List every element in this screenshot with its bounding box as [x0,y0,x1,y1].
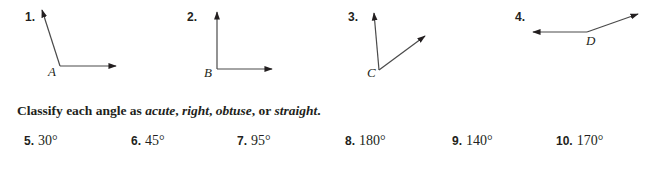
figure-number-1: 1. [25,11,35,23]
exercise-number: 10. [556,134,573,148]
term-obtuse: obtuse [216,103,252,118]
ray-c-1 [374,13,379,70]
figure-number-2: 2. [187,11,197,23]
term-straight: straight [274,103,317,118]
angle-figures: 1. A 2. B 3. C 4. D [0,0,653,90]
exercise-number: 5. [24,134,34,148]
vertex-label-d: D [586,34,595,47]
exercise-row: 5.30° 6.45° 7.95° 8.180° 9.140° 10.170° [0,131,653,151]
exercise-8: 8.180° [345,131,386,149]
exercise-6: 6.45° [131,131,165,149]
exercise-number: 6. [131,134,141,148]
vertex-label-b: B [204,66,212,79]
angle-c-figure [374,13,425,70]
exercise-9: 9.140° [452,131,493,149]
ray-c-2 [379,36,425,70]
figure-number-3: 3. [348,11,358,23]
exercise-7: 7.95° [237,131,271,149]
exercise-5: 5.30° [24,131,58,149]
instruction-text: Classify each angle as acute, right, obt… [17,103,321,119]
figure-number-4: 4. [515,11,525,23]
ray-d-2 [587,14,638,32]
vertex-label-a: A [48,65,56,78]
angle-b-figure [217,12,272,69]
exercise-angle-value: 45° [145,133,165,148]
angle-diagrams-svg [0,0,653,90]
exercise-angle-value: 140° [466,133,493,148]
instruction-sep-3: , or [252,103,275,118]
exercise-angle-value: 30° [38,133,58,148]
instruction-sep-2: , [209,103,216,118]
term-acute: acute [145,103,175,118]
exercise-10: 10.170° [556,131,603,149]
exercise-number: 9. [452,134,462,148]
ray-a-1 [42,10,60,66]
exercise-number: 7. [237,134,247,148]
exercise-angle-value: 170° [577,133,604,148]
instruction-sep-1: , [175,103,182,118]
angle-a-figure [42,10,116,66]
instruction-prefix: Classify each angle as [17,103,145,118]
vertex-label-c: C [367,66,376,79]
instruction-suffix: . [317,103,320,118]
angle-d-figure [533,14,638,32]
term-right: right [182,103,209,118]
exercise-angle-value: 95° [251,133,271,148]
exercise-number: 8. [345,134,355,148]
exercise-angle-value: 180° [359,133,386,148]
